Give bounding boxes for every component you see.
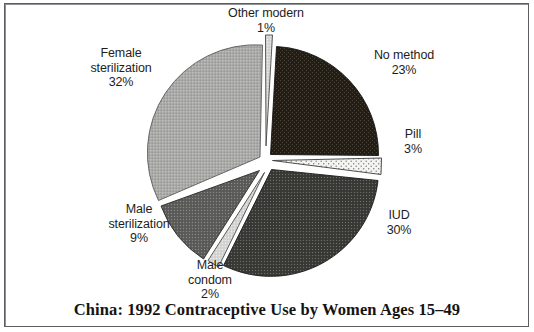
chart-title: China: 1992 Contraceptive Use by Women A… xyxy=(0,300,534,320)
label-pill: Pill 3% xyxy=(383,127,443,156)
label-male-sterilization: Male sterilization 9% xyxy=(80,202,198,246)
chart-page: Other modern 1% No method 23% Pill 3% IU… xyxy=(0,0,534,332)
label-female-sterilization: Female sterilization 32% xyxy=(62,46,180,90)
label-iud: IUD 30% xyxy=(364,208,434,237)
label-other-modern: Other modern 1% xyxy=(198,6,334,35)
label-male-condom: Male condom 2% xyxy=(160,258,260,302)
label-no-method: No method 23% xyxy=(348,48,460,77)
